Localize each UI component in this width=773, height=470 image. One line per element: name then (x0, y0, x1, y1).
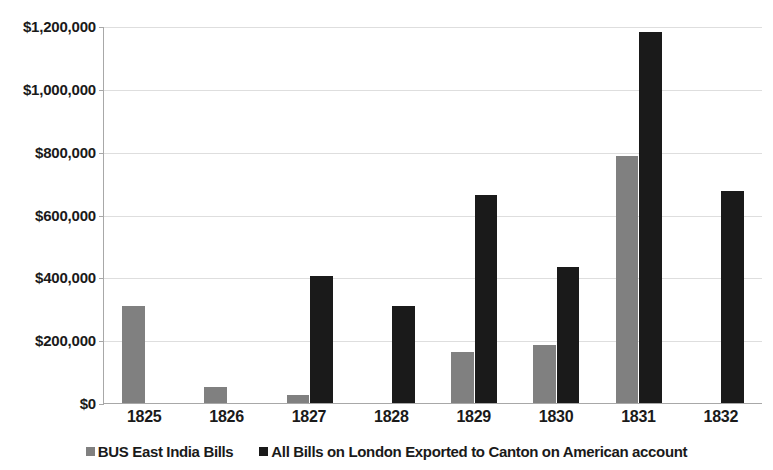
bar[interactable] (533, 345, 556, 403)
x-axis-tick-label: 1828 (350, 406, 432, 430)
bar-group (680, 27, 762, 403)
bar-slot (122, 27, 145, 403)
legend-entry[interactable]: All Bills on London Exported to Canton o… (259, 443, 687, 460)
bar-group (186, 27, 268, 403)
chart-legend: BUS East India BillsAll Bills on London … (0, 437, 773, 465)
bar-slot (475, 27, 498, 403)
bar-slot (639, 27, 662, 403)
legend-entry[interactable]: BUS East India Bills (86, 443, 234, 460)
x-axis-tick-label: 1832 (680, 406, 762, 430)
x-axis-tick-label: 1826 (185, 406, 267, 430)
bar[interactable] (721, 191, 744, 403)
y-axis-tick-mark (99, 404, 104, 405)
bar[interactable] (310, 276, 333, 403)
bar-slot (557, 27, 580, 403)
bar-slot (369, 27, 392, 403)
bar[interactable] (204, 387, 227, 403)
plot-area (103, 27, 762, 404)
bar-slot (146, 27, 169, 403)
bar[interactable] (392, 306, 415, 403)
bar-group (515, 27, 597, 403)
x-axis-tick-label: 1829 (433, 406, 515, 430)
bar[interactable] (639, 32, 662, 403)
bar-groups (104, 27, 762, 403)
bar-slot (204, 27, 227, 403)
legend-label: BUS East India Bills (98, 443, 234, 460)
y-axis-tick-label: $0 (0, 396, 96, 412)
bar-slot (698, 27, 721, 403)
bar-group (351, 27, 433, 403)
y-axis-tick-label: $1,000,000 (0, 82, 96, 98)
y-axis-tick-label: $800,000 (0, 145, 96, 161)
x-axis-tick-label: 1831 (597, 406, 679, 430)
bar-slot (451, 27, 474, 403)
legend-swatch-icon (86, 447, 95, 456)
legend-swatch-icon (259, 447, 268, 456)
x-axis-tick-label: 1825 (103, 406, 185, 430)
bar[interactable] (616, 156, 639, 403)
bar-group (104, 27, 186, 403)
bar-group (433, 27, 515, 403)
x-axis-tick-label: 1827 (268, 406, 350, 430)
bar-chart: $0$200,000$400,000$600,000$800,000$1,000… (0, 0, 773, 470)
bar-slot (287, 27, 310, 403)
bar-slot (533, 27, 556, 403)
bar-group (269, 27, 351, 403)
bar[interactable] (451, 352, 474, 403)
bar[interactable] (287, 395, 310, 403)
y-axis-tick-label: $200,000 (0, 333, 96, 349)
x-axis-tick-label: 1830 (515, 406, 597, 430)
bar-slot (616, 27, 639, 403)
x-axis: 18251826182718281829183018311832 (103, 406, 762, 430)
bar-slot (310, 27, 333, 403)
bar-slot (721, 27, 744, 403)
bar[interactable] (475, 195, 498, 403)
bar-slot (228, 27, 251, 403)
y-axis-tick-label: $400,000 (0, 270, 96, 286)
y-axis: $0$200,000$400,000$600,000$800,000$1,000… (0, 0, 96, 420)
bar[interactable] (122, 306, 145, 403)
bar-slot (392, 27, 415, 403)
legend-label: All Bills on London Exported to Canton o… (271, 443, 687, 460)
bar[interactable] (557, 267, 580, 403)
y-axis-tick-label: $1,200,000 (0, 19, 96, 35)
y-axis-tick-label: $600,000 (0, 208, 96, 224)
bar-group (598, 27, 680, 403)
